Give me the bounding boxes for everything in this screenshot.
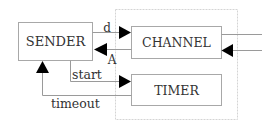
edge-ack-label: A	[107, 53, 117, 67]
timer-label: TIMER	[154, 83, 199, 98]
arrowhead-left-icon	[94, 43, 107, 56]
edge-data-label: d	[103, 21, 111, 35]
edge-data: d	[93, 21, 132, 39]
edge-start-label: start	[72, 67, 102, 82]
channel-node: CHANNEL	[132, 27, 222, 59]
edge-ack: A	[94, 43, 132, 67]
sender-node: SENDER	[19, 23, 93, 61]
timer-node: TIMER	[132, 75, 222, 106]
diagram-canvas: SENDER CHANNEL TIMER d A start	[0, 0, 268, 126]
edge-start: start	[71, 61, 132, 89]
arrowhead-up-icon	[36, 61, 49, 73]
sender-label: SENDER	[26, 34, 87, 49]
edge-channel-in	[222, 44, 263, 57]
edge-timeout-label: timeout	[51, 96, 100, 111]
arrowhead-right-icon	[119, 26, 131, 39]
channel-label: CHANNEL	[142, 35, 211, 50]
arrowhead-right-icon	[119, 75, 131, 88]
arrowhead-left-icon	[222, 44, 234, 57]
